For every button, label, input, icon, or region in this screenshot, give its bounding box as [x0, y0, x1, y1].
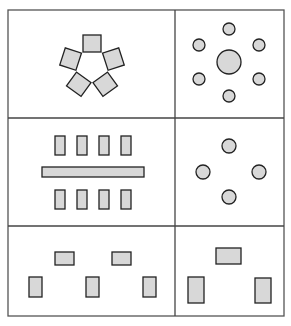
- rect-horizontal: [112, 252, 131, 265]
- square: [83, 35, 101, 52]
- rect-top: [99, 136, 109, 155]
- rect-vertical: [29, 277, 42, 297]
- circle-left: [196, 165, 210, 179]
- circle-top: [222, 139, 236, 153]
- rect-horizontal: [216, 248, 241, 264]
- rect-bottom: [121, 190, 131, 209]
- satellite-circle: [223, 23, 235, 35]
- panel-bilateral-rects: [42, 136, 144, 209]
- circle-bottom: [222, 190, 236, 204]
- rect-top: [121, 136, 131, 155]
- diagram-canvas: [0, 0, 291, 326]
- rect-vertical: [143, 277, 156, 297]
- horizontal-bar: [42, 167, 144, 177]
- center-circle: [217, 50, 241, 74]
- panel-triangle-rects: [188, 248, 271, 303]
- rect-top: [55, 136, 65, 155]
- satellite-circle: [193, 39, 205, 51]
- rect-vertical: [86, 277, 99, 297]
- square: [93, 72, 118, 96]
- panel-radial-squares: [60, 35, 125, 96]
- satellite-circle: [193, 73, 205, 85]
- satellite-circle: [253, 73, 265, 85]
- rect-bottom: [99, 190, 109, 209]
- panel-radial-circles: [193, 23, 265, 102]
- rect-top: [77, 136, 87, 155]
- square: [103, 48, 125, 70]
- rect-vertical-right: [255, 278, 271, 303]
- panel-four-circles: [196, 139, 266, 204]
- rect-horizontal: [55, 252, 74, 265]
- circle-right: [252, 165, 266, 179]
- square: [66, 72, 91, 96]
- rect-bottom: [55, 190, 65, 209]
- rect-vertical-left: [188, 277, 204, 303]
- satellite-circle: [253, 39, 265, 51]
- rect-bottom: [77, 190, 87, 209]
- satellite-circle: [223, 90, 235, 102]
- panel-rhythm-rects: [29, 252, 156, 297]
- square: [60, 48, 82, 70]
- outer-frame: [8, 10, 284, 316]
